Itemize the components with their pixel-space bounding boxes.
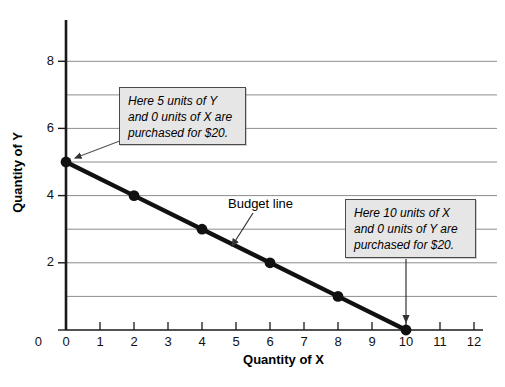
x-tick-label-1: 1 xyxy=(88,334,112,349)
x-tick-label-7: 7 xyxy=(292,334,316,349)
y-tick-label-4: 4 xyxy=(32,187,54,202)
x-tick-label-8: 8 xyxy=(326,334,350,349)
callout-right-line-2: and 0 units of Y are xyxy=(354,221,468,237)
data-point-0-5 xyxy=(61,157,72,168)
data-point-2-4 xyxy=(129,190,140,201)
y-tick-label-6: 6 xyxy=(32,120,54,135)
x-tick-label-11: 11 xyxy=(428,334,452,349)
x-tick-label-3: 3 xyxy=(156,334,180,349)
axis-lines xyxy=(66,20,483,330)
data-point-6-2 xyxy=(265,257,276,268)
x-tick-label-5: 5 xyxy=(224,334,248,349)
callout-left-line-2: and 0 units of X are xyxy=(128,109,238,125)
callout-right-line-3: purchased for $20. xyxy=(354,237,468,253)
x-tick-label-6: 6 xyxy=(258,334,282,349)
x-axis-ticks xyxy=(100,322,474,330)
y-tick-label-2: 2 xyxy=(32,254,54,269)
callout-left: Here 5 units of Y and 0 units of X are p… xyxy=(119,87,246,145)
y-tick-label-8: 8 xyxy=(32,53,54,68)
budget-line-chart xyxy=(0,0,505,387)
data-point-8-1 xyxy=(333,291,344,302)
y-tick-label-0: 0 xyxy=(20,334,42,349)
callout-right: Here 10 units of X and 0 units of Y are … xyxy=(345,199,476,258)
x-tick-label-2: 2 xyxy=(122,334,146,349)
callout-left-line-3: purchased for $20. xyxy=(128,125,238,141)
callout-right-line-1: Here 10 units of X xyxy=(354,205,468,221)
y-axis-title: Quantity of Y xyxy=(10,123,25,223)
x-tick-label-4: 4 xyxy=(190,334,214,349)
x-tick-label-12: 12 xyxy=(462,334,486,349)
x-tick-label-0: 0 xyxy=(54,334,78,349)
series-label-budget-line: Budget line xyxy=(228,196,293,211)
chart-figure: 8 6 4 2 0 0 1 2 3 4 5 6 7 8 9 10 11 12 Q… xyxy=(0,0,505,387)
x-tick-label-9: 9 xyxy=(360,334,384,349)
x-axis-title: Quantity of X xyxy=(0,352,505,367)
x-tick-label-10: 10 xyxy=(394,334,418,349)
data-point-4-3 xyxy=(197,224,208,235)
callout-left-line-1: Here 5 units of Y xyxy=(128,93,238,109)
